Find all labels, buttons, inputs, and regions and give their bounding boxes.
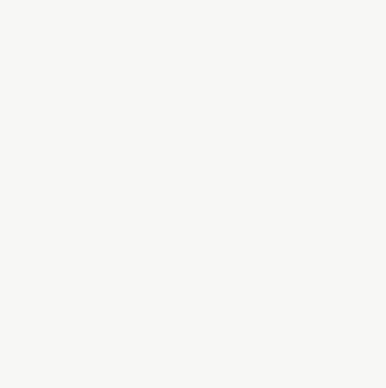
coordinate-plane bbox=[0, 0, 386, 388]
